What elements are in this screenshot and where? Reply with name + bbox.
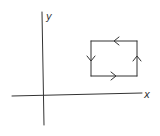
y-axis-label: y bbox=[45, 11, 53, 22]
y-axis bbox=[42, 12, 44, 125]
diagram-canvas: y x bbox=[0, 0, 160, 136]
rectangular-loop bbox=[87, 37, 141, 80]
x-axis bbox=[12, 93, 142, 96]
x-axis-label: x bbox=[143, 89, 150, 100]
